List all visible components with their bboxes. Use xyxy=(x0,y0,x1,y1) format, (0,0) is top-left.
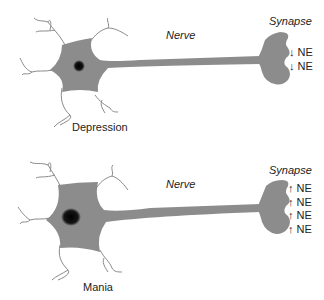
ne-item: ↓ NE xyxy=(289,59,313,73)
synapse-terminal xyxy=(258,32,290,85)
synapse-terminal xyxy=(258,180,290,234)
neuron-diagram xyxy=(0,0,324,300)
ne-item: ↑ NE xyxy=(288,222,312,236)
ne-item: ↓ NE xyxy=(289,45,313,59)
nerve-label: Nerve xyxy=(166,29,195,41)
depression-neuron xyxy=(20,18,290,127)
ne-item: ↑ NE xyxy=(288,181,312,195)
nerve-label: Nerve xyxy=(166,178,195,190)
ne-item: ↑ NE xyxy=(288,208,312,222)
caption-depression: Depression xyxy=(72,121,128,133)
nucleus xyxy=(73,60,85,72)
nucleus xyxy=(61,208,81,226)
mania-neuron xyxy=(18,162,290,280)
synapse-label: Synapse xyxy=(269,15,312,27)
caption-mania: Mania xyxy=(83,281,113,293)
synapse-label: Synapse xyxy=(269,164,312,176)
ne-item: ↑ NE xyxy=(288,195,312,209)
